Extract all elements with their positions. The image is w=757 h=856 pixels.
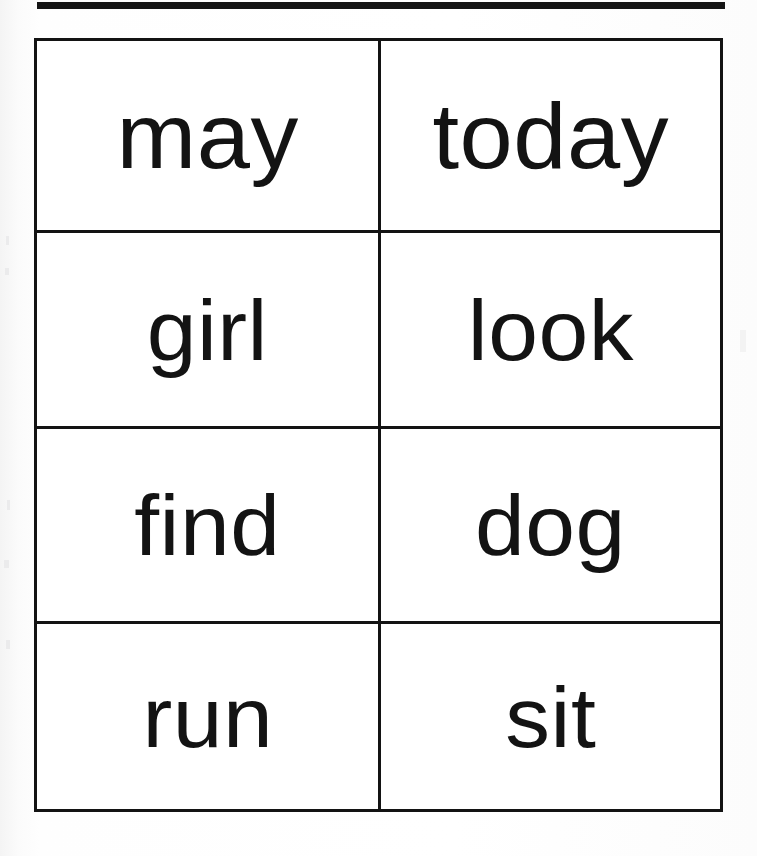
flashcard-word: girl xyxy=(147,287,268,373)
flashcard-word: look xyxy=(467,287,633,373)
scan-artifact xyxy=(5,268,9,275)
flashcard-cell[interactable]: run xyxy=(37,624,381,809)
flashcard-cell[interactable]: look xyxy=(381,233,720,429)
flashcard-cell[interactable]: dog xyxy=(381,429,720,624)
scan-artifact xyxy=(4,560,9,568)
flashcard-cell[interactable]: today xyxy=(381,41,720,233)
flashcard-cell[interactable]: find xyxy=(37,429,381,624)
scan-artifact xyxy=(6,640,10,649)
flashcard-word: may xyxy=(116,90,298,182)
flashcard-grid: may today girl look find dog run sit xyxy=(34,38,723,812)
flashcard-word: sit xyxy=(505,674,596,760)
header-rule xyxy=(37,2,725,9)
scan-artifact xyxy=(6,236,9,245)
flashcard-word: find xyxy=(134,482,280,568)
scan-artifact xyxy=(740,330,746,352)
flashcard-cell[interactable]: may xyxy=(37,41,381,233)
flashcard-word: run xyxy=(142,674,273,760)
scan-artifact xyxy=(7,500,10,510)
flashcard-word: dog xyxy=(475,482,626,568)
flashcard-cell[interactable]: girl xyxy=(37,233,381,429)
flashcard-word: today xyxy=(432,90,669,182)
flashcard-cell[interactable]: sit xyxy=(381,624,720,809)
